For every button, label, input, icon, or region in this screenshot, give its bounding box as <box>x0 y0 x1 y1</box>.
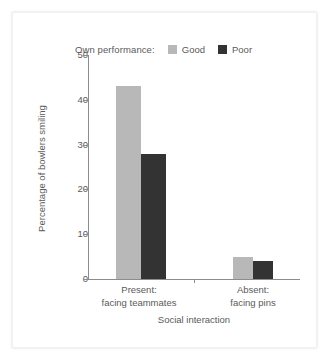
bar-good-group0 <box>116 86 141 279</box>
x-axis-center-tick <box>194 279 195 283</box>
bar-poor-group1 <box>253 261 273 279</box>
x-axis-title: Social interaction <box>88 314 300 325</box>
x-axis-group-label-present: Present: facing teammates <box>79 284 199 309</box>
y-axis-tick-mark <box>83 279 88 280</box>
figure-card: Own performance: Good Poor 01020304050 P… <box>12 12 317 348</box>
bars-layer <box>13 13 318 279</box>
x-axis-group-label-absent: Absent: facing pins <box>193 284 313 309</box>
x-label-line-1: Present: <box>79 284 199 297</box>
bar-poor-group0 <box>141 154 166 279</box>
y-axis-tick: 0 <box>41 279 88 280</box>
bar-good-group1 <box>233 257 253 279</box>
x-label-line-2: facing pins <box>193 297 313 310</box>
x-label-line-2: facing teammates <box>79 297 199 310</box>
bar-chart: Own performance: Good Poor 01020304050 P… <box>13 13 318 349</box>
x-label-line-1: Absent: <box>193 284 313 297</box>
